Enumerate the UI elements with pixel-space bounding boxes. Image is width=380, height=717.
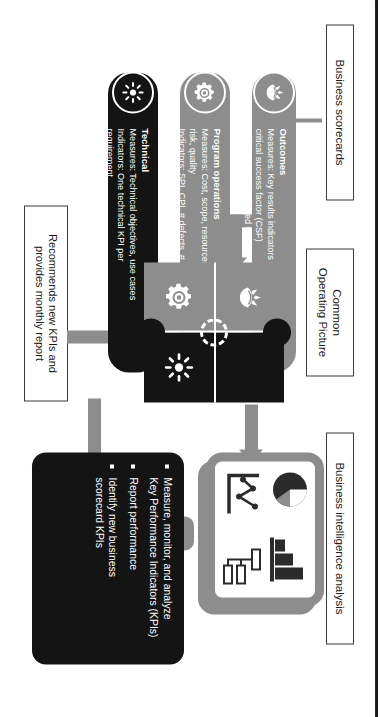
feedback-label-box: Recommends new KPIs and provides monthly… — [24, 205, 68, 401]
bi-monitor-illustration — [198, 452, 324, 614]
header-cop-line1: Common — [331, 289, 343, 336]
diagram-stage: Business scorecards Common Operating Pic… — [0, 0, 380, 717]
scorecard-program-badge — [184, 71, 226, 113]
header-cop-label: Common Operating Picture — [316, 267, 344, 357]
common-operating-picture-puzzle — [144, 262, 284, 402]
bi-activities-panel: Measure, monitor, and analyzeKey Perform… — [32, 452, 184, 664]
dashboard-charts-group — [219, 461, 315, 593]
header-cop-line2: Operating Picture — [317, 267, 329, 357]
org-tree-icon — [224, 549, 260, 583]
puzzle-knob-top — [263, 318, 291, 346]
bi-bullet-2: Report performance — [126, 464, 140, 652]
arrow-scorecards-to-cop — [229, 214, 242, 258]
feedback-line1: Recommends new KPIs and — [47, 234, 59, 373]
feedback-line2: provides monthly report — [34, 246, 46, 361]
bi-activities-list: Measure, monitor, and analyzeKey Perform… — [92, 464, 174, 652]
bi-bullet-1: Measure, monitor, and analyzeKey Perform… — [147, 464, 174, 652]
header-business-intelligence-analysis: Business intelligence analysis — [326, 432, 354, 644]
line-chart-icon — [229, 475, 259, 513]
connector-scorecards-header-stem — [294, 118, 322, 122]
scorecard-technical-line1: Measures: Technical objectives, use case… — [126, 128, 137, 360]
bi-bullet-1-text: Measure, monitor, and analyzeKey Perform… — [148, 477, 173, 637]
hand-growth-icon — [262, 80, 286, 104]
puzzle-knob-center — [200, 318, 228, 346]
gear-icon — [164, 282, 194, 312]
scorecard-technical-line3: requirement — [104, 128, 115, 360]
scorecard-outcomes-badge — [253, 71, 295, 113]
diagram-canvas: Business scorecards Common Operating Pic… — [0, 0, 380, 717]
starburst-icon — [121, 80, 145, 104]
hand-growth-icon — [234, 282, 264, 312]
scorecard-technical-badge — [112, 71, 154, 113]
feedback-label-text: Recommends new KPIs and provides monthly… — [33, 234, 60, 373]
header-business-scorecards-label: Business scorecards — [333, 59, 347, 165]
bi-bullet-2-text: Report performance — [128, 477, 139, 569]
page-edge-highlight — [373, 0, 375, 717]
bi-bullet-3: Identify new businessscorecard KPIs — [92, 464, 119, 652]
gear-icon — [194, 81, 217, 104]
bar-chart-icon — [270, 537, 303, 581]
puzzle-knob-bottom — [137, 318, 165, 346]
starburst-icon — [163, 351, 195, 383]
pie-chart-icon — [273, 472, 307, 506]
monitor-screen — [206, 452, 324, 606]
header-bi-label: Business intelligence analysis — [333, 462, 347, 614]
bi-bullet-3-text: Identify new businessscorecard KPIs — [94, 477, 119, 576]
header-common-operating-picture: Common Operating Picture — [306, 248, 354, 376]
header-business-scorecards: Business scorecards — [326, 24, 354, 200]
arrow-cop-to-bi — [245, 404, 258, 450]
scorecard-technical-line2: Indicators: One technical KPI per — [115, 128, 126, 360]
page-edge-shadow — [375, 0, 378, 717]
